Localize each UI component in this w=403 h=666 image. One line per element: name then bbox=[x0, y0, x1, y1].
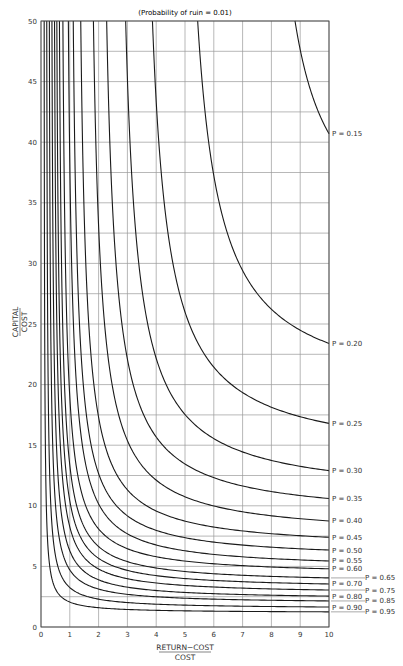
curve-label: P = 0.35 bbox=[332, 495, 362, 503]
y-tick-label: 50 bbox=[28, 18, 37, 26]
y-tick-label: 45 bbox=[28, 78, 37, 86]
x-label-numerator: RETURN−COST bbox=[156, 643, 214, 652]
curve-label: P = 0.65 bbox=[365, 574, 395, 582]
x-tick-label: 5 bbox=[183, 631, 187, 639]
x-tick-label: 6 bbox=[212, 631, 217, 639]
curve-label: P = 0.40 bbox=[332, 517, 362, 525]
y-label-numerator: CAPITAL bbox=[11, 306, 20, 337]
y-tick-label: 10 bbox=[28, 502, 37, 510]
x-tick-label: 7 bbox=[240, 631, 244, 639]
y-tick-label: 0 bbox=[33, 624, 37, 632]
x-tick-label: 9 bbox=[298, 631, 302, 639]
curve-label: P = 0.90 bbox=[332, 604, 362, 612]
x-tick-label: 3 bbox=[125, 631, 129, 639]
x-tick-label: 4 bbox=[154, 631, 159, 639]
y-tick-label: 25 bbox=[28, 321, 37, 329]
curve-line bbox=[49, 21, 329, 601]
curve-line bbox=[52, 21, 329, 596]
curve-labels: P = 0.15P = 0.20P = 0.25P = 0.30P = 0.35… bbox=[331, 130, 395, 616]
x-tick-label: 1 bbox=[68, 631, 72, 639]
curve-label: P = 0.50 bbox=[332, 547, 362, 555]
y-tick-label: 35 bbox=[28, 199, 37, 207]
curve-label: P = 0.60 bbox=[332, 565, 362, 573]
grid-lines bbox=[41, 21, 329, 627]
curve-line bbox=[93, 21, 329, 521]
chart-title: (Probability of ruin = 0.01) bbox=[138, 9, 232, 17]
curve-label: P = 0.85 bbox=[365, 597, 395, 605]
curve-line bbox=[47, 21, 329, 607]
y-tick-label: 40 bbox=[28, 139, 37, 147]
y-label-denominator: COST bbox=[20, 311, 29, 332]
curve-label: P = 0.45 bbox=[332, 534, 362, 542]
curve-label: P = 0.70 bbox=[332, 580, 362, 588]
curve-label: P = 0.95 bbox=[365, 608, 395, 616]
curve-line bbox=[68, 21, 329, 561]
curve-label: P = 0.75 bbox=[365, 587, 395, 595]
y-tick-label: 20 bbox=[28, 381, 37, 389]
curve-label: P = 0.25 bbox=[332, 420, 362, 428]
x-label-denominator: COST bbox=[175, 653, 196, 662]
curve-series bbox=[44, 21, 329, 612]
x-tick-label: 8 bbox=[269, 631, 273, 639]
curve-label: P = 0.15 bbox=[332, 130, 362, 138]
y-axis-label: CAPITAL COST bbox=[11, 306, 29, 337]
x-tick-label: 0 bbox=[39, 631, 43, 639]
curve-line bbox=[55, 21, 329, 590]
curve-label: P = 0.30 bbox=[332, 467, 362, 475]
x-axis-ticks: 012345678910 bbox=[39, 631, 334, 639]
curve-label: P = 0.20 bbox=[332, 340, 362, 348]
y-tick-label: 15 bbox=[28, 442, 37, 450]
x-axis-label: RETURN−COST COST bbox=[156, 643, 214, 662]
y-axis-ticks: 05101520253035404550 bbox=[28, 18, 37, 632]
curve-line bbox=[81, 21, 329, 537]
curve-line bbox=[107, 21, 329, 499]
x-tick-label: 10 bbox=[325, 631, 334, 639]
x-tick-label: 2 bbox=[96, 631, 100, 639]
y-tick-label: 30 bbox=[28, 260, 37, 268]
curve-label: P = 0.80 bbox=[332, 593, 362, 601]
curve-line bbox=[73, 21, 329, 550]
y-tick-label: 5 bbox=[33, 563, 37, 571]
curve-line bbox=[198, 21, 329, 343]
chart-figure: (Probability of ruin = 0.01) 05101520253… bbox=[0, 0, 403, 666]
curve-label: P = 0.55 bbox=[332, 557, 362, 565]
